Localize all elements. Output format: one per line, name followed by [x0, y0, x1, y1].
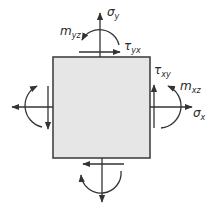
sigma-x-label: σx: [193, 107, 205, 122]
sigma-y-subscript: y: [115, 12, 120, 21]
sigma-x-subscript: x: [201, 113, 206, 122]
m-xz-symbol: m: [180, 79, 192, 93]
m-yz-subscript: yz: [72, 31, 81, 40]
m-yz-symbol: m: [60, 24, 72, 38]
sigma-x-symbol: σ: [193, 106, 201, 120]
left-face-loads: [12, 86, 53, 129]
tau-xy-label: τxy: [154, 64, 171, 79]
stress-element-diagram: [0, 0, 214, 210]
bottom-face-loads: [81, 158, 124, 202]
tau-yx-subscript: yx: [131, 46, 140, 55]
stress-element-square: [53, 57, 150, 158]
tau-yx-label: τyx: [124, 40, 141, 55]
m-yz-label: myz: [60, 25, 81, 40]
sigma-y-label: σy: [107, 6, 119, 21]
m-xz-label: mxz: [180, 80, 201, 95]
tau-xy-subscript: xy: [161, 70, 170, 79]
sigma-y-symbol: σ: [107, 5, 115, 19]
m-xz-subscript: xz: [192, 86, 201, 95]
bottom-moment-arc: [81, 171, 121, 193]
